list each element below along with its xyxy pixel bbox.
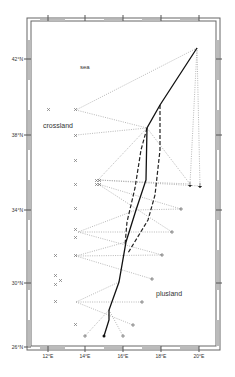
plus-markers [83,182,202,338]
track-end-point [103,335,106,338]
plusland-label: plusland [156,290,182,298]
map-outer-frame [27,18,220,350]
y-tick-label: 30°N [12,280,24,286]
x-tick-label: 14°E [80,353,92,359]
main-track [104,48,197,336]
y-axis-ticks [24,59,222,347]
y-tick-label: 34°N [12,207,24,213]
y-tick-label: 38°N [12,132,24,138]
x-tick-label: 18°E [156,353,168,359]
x-axis-labels: 12°E 14°E 16°E 18°E 20°E [43,353,206,359]
sea-label: sea [80,64,90,70]
x-tick-label: 16°E [118,353,130,359]
y-tick-label: 26°N [12,344,24,350]
x-tick-label: 20°E [194,353,206,359]
x-tick-label: 12°E [43,353,55,359]
map-figure: 12°E 14°E 16°E 18°E 20°E 42°N 38°N 34°N … [0,0,235,377]
dashed-envelope [125,105,160,253]
y-axis-labels: 42°N 38°N 34°N 30°N 26°N [12,56,24,350]
crossland-label: crossland [43,122,73,129]
x-markers [47,108,101,326]
map-inner-frame [31,21,216,346]
y-tick-label: 42°N [12,56,24,62]
